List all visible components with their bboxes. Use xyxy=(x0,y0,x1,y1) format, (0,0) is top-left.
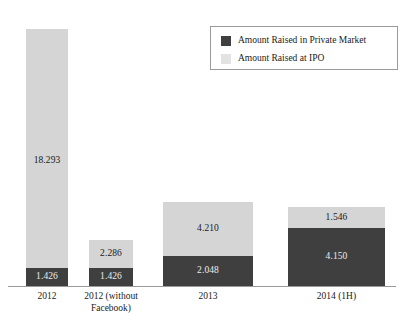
legend-item-ipo[interactable]: Amount Raised at IPO xyxy=(221,51,397,67)
x-axis-label-3: 2014 (1H) xyxy=(288,290,385,302)
bar-segment-value-label: 2.286 xyxy=(100,249,122,259)
bar-stack: 4.2102.048 xyxy=(163,202,253,286)
legend-item-label: Amount Raised at IPO xyxy=(238,54,324,64)
bar-segment-ipo[interactable]: 2.286 xyxy=(89,240,133,268)
bar-segment-value-label: 2.048 xyxy=(197,266,219,276)
x-axis-line xyxy=(8,286,396,287)
bar-segment-value-label: 1.426 xyxy=(36,272,58,282)
bar-group: 1.5464.150 xyxy=(288,207,385,286)
bar-group: 2.2861.426 xyxy=(89,240,133,286)
bar-stack: 2.2861.426 xyxy=(89,240,133,286)
legend-item-label: Amount Raised in Private Market xyxy=(238,36,366,46)
chart-legend: Amount Raised in Private Market Amount R… xyxy=(210,26,398,70)
stacked-bar-chart: 18.2931.4262.2861.4264.2102.0481.5464.15… xyxy=(0,0,404,323)
bar-segment-ipo[interactable]: 4.210 xyxy=(163,202,253,256)
bar-group: 4.2102.048 xyxy=(163,202,253,286)
bar-segment-value-label: 4.150 xyxy=(326,252,348,262)
bar-group: 18.2931.426 xyxy=(26,29,68,286)
bar-segment-value-label: 1.426 xyxy=(100,272,122,282)
bar-segment-private-market[interactable]: 1.426 xyxy=(26,268,68,286)
bar-segment-ipo[interactable]: 18.293 xyxy=(26,29,68,268)
x-axis-label-1: 2012 (without Facebook) xyxy=(66,290,156,314)
x-axis-label-2: 2013 xyxy=(163,290,253,302)
bar-segment-value-label: 18.293 xyxy=(34,156,61,166)
bar-segment-value-label: 4.210 xyxy=(197,224,219,234)
bar-segment-private-market[interactable]: 1.426 xyxy=(89,268,133,286)
bar-stack: 18.2931.426 xyxy=(26,29,68,286)
bar-stack: 1.5464.150 xyxy=(288,207,385,286)
bar-segment-private-market[interactable]: 4.150 xyxy=(288,228,385,286)
bar-segment-ipo[interactable]: 1.546 xyxy=(288,207,385,228)
legend-item-private-market[interactable]: Amount Raised in Private Market xyxy=(221,33,397,49)
private-market-swatch-icon xyxy=(221,36,231,46)
ipo-swatch-icon xyxy=(221,54,231,64)
bar-segment-private-market[interactable]: 2.048 xyxy=(163,256,253,286)
bar-segment-value-label: 1.546 xyxy=(326,213,348,223)
